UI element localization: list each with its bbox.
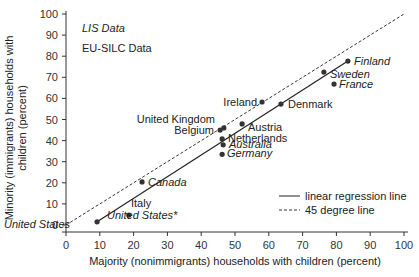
x-tick-label: 10 xyxy=(94,239,106,251)
point-label: Austria xyxy=(248,121,283,133)
y-tick-label: 90 xyxy=(46,29,58,41)
point-marker-icon xyxy=(321,69,326,74)
point-label: Ireland xyxy=(223,96,257,108)
data-point: Finland xyxy=(345,55,391,67)
scatter-chart: 0102030405060708090100 01020304050607080… xyxy=(0,0,419,277)
y-tick-label: 70 xyxy=(46,71,58,83)
point-label: United States* xyxy=(107,209,178,221)
y-ticks: 0102030405060708090100 xyxy=(40,8,66,231)
y-axis-title-line-2: children (percent) xyxy=(16,85,28,171)
y-tick-label: 20 xyxy=(46,177,58,189)
legend: linear regression line 45 degree line xyxy=(279,190,407,216)
data-point: Canada xyxy=(139,176,186,188)
y-axis-title: Minority (immigrants) households with ch… xyxy=(3,36,28,221)
y-tick-label: 60 xyxy=(46,92,58,104)
point-marker-icon xyxy=(221,125,226,130)
legend-label-45-degree: 45 degree line xyxy=(305,204,375,216)
x-tick-label: 0 xyxy=(63,239,69,251)
data-point: Ireland xyxy=(223,96,264,108)
point-label: Denmark xyxy=(288,98,333,110)
point-label: United States xyxy=(4,218,71,230)
source-label-eu-silc: EU-SILC Data xyxy=(82,42,153,54)
x-tick-label: 20 xyxy=(127,239,139,251)
x-tick-label: 60 xyxy=(263,239,275,251)
point-marker-icon xyxy=(94,219,99,224)
point-marker-icon xyxy=(221,142,226,147)
data-point: Belgium xyxy=(174,124,222,136)
x-tick-label: 80 xyxy=(330,239,342,251)
point-marker-icon xyxy=(278,101,283,106)
x-tick-label: 70 xyxy=(296,239,308,251)
y-axis: 0102030405060708090100 xyxy=(40,8,66,232)
y-tick-label: 50 xyxy=(46,114,58,126)
y-axis-title-line-1: Minority (immigrants) households with xyxy=(3,36,15,221)
point-marker-icon xyxy=(331,81,336,86)
point-marker-icon xyxy=(220,152,225,157)
data-point: Italy xyxy=(131,197,152,209)
x-tick-label: 90 xyxy=(364,239,376,251)
data-point: United States* xyxy=(107,209,178,221)
x-axis: 0102030405060708090100 xyxy=(62,232,413,251)
point-marker-icon xyxy=(239,121,244,126)
x-tick-label: 50 xyxy=(229,239,241,251)
y-tick-label: 100 xyxy=(40,8,58,20)
point-marker-icon xyxy=(259,99,264,104)
point-marker-icon xyxy=(345,58,350,63)
y-tick-label: 40 xyxy=(46,135,58,147)
y-tick-label: 10 xyxy=(46,198,58,210)
x-axis-title: Majority (nonimmigrants) households with… xyxy=(89,255,381,267)
point-label: United Kingdom xyxy=(137,113,215,125)
point-label: Canada xyxy=(148,176,187,188)
x-tick-label: 30 xyxy=(161,239,173,251)
point-label: Finland xyxy=(354,55,391,67)
x-tick-label: 100 xyxy=(395,239,413,251)
x-tick-label: 40 xyxy=(195,239,207,251)
source-label-lis: LIS Data xyxy=(82,22,125,34)
point-label: Sweden xyxy=(330,68,370,80)
data-point: Netherlands xyxy=(220,132,288,144)
point-marker-icon xyxy=(139,179,144,184)
point-label: Belgium xyxy=(174,124,214,136)
point-label: Netherlands xyxy=(228,132,288,144)
x-ticks: 0102030405060708090100 xyxy=(63,232,413,251)
point-label: Italy xyxy=(131,197,152,209)
legend-label-regression: linear regression line xyxy=(305,190,407,202)
y-tick-label: 30 xyxy=(46,156,58,168)
point-marker-icon xyxy=(220,136,225,141)
y-tick-label: 80 xyxy=(46,50,58,62)
data-point: United States xyxy=(4,218,100,230)
